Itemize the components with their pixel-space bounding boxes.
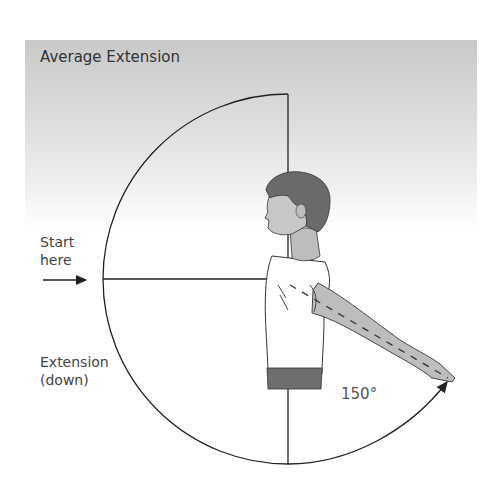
extended-arm (312, 283, 455, 382)
start-label-line1: Start (40, 233, 74, 251)
start-here-label: Start here (40, 233, 74, 269)
ear (296, 204, 306, 218)
extension-label-line2: (down) (40, 371, 109, 389)
angle-label: 150° (341, 385, 377, 403)
diagram-title: Average Extension (40, 48, 180, 66)
range-of-motion-diagram (0, 0, 500, 489)
belt (267, 368, 322, 389)
start-label-line2: here (40, 251, 74, 269)
extension-down-label: Extension (down) (40, 353, 109, 389)
extension-label-line1: Extension (40, 353, 109, 371)
